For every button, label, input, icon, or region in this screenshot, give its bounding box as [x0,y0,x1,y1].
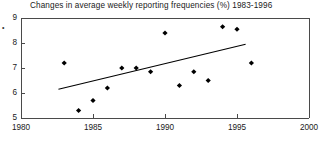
data-points-group [62,24,254,113]
data-point [90,98,95,103]
data-point [249,60,254,65]
chart-figure: Changes in average weekly reporting freq… [0,0,328,143]
trendline [58,44,245,89]
data-point [234,27,239,32]
data-point [162,30,167,35]
y-tick-label: 8 [3,38,17,47]
y-tick-label: 6 [3,88,17,97]
x-tick-label: 1985 [76,123,110,132]
x-tick-label: 1995 [220,123,254,132]
data-point [76,108,81,113]
y-tick-label: 9 [3,13,17,22]
x-tick-label: 1980 [4,123,38,132]
data-point [148,69,153,74]
trendline-segment [58,44,245,89]
data-point [105,85,110,90]
data-point [191,69,196,74]
plot-area [0,0,328,143]
y-tick-label: 5 [3,113,17,122]
data-point [62,60,67,65]
data-point [206,78,211,83]
data-point [220,24,225,29]
x-tick-label: 2000 [292,123,326,132]
data-point [177,83,182,88]
x-tick-label: 1990 [148,123,182,132]
data-point [119,65,124,70]
y-tick-label: 7 [3,63,17,72]
